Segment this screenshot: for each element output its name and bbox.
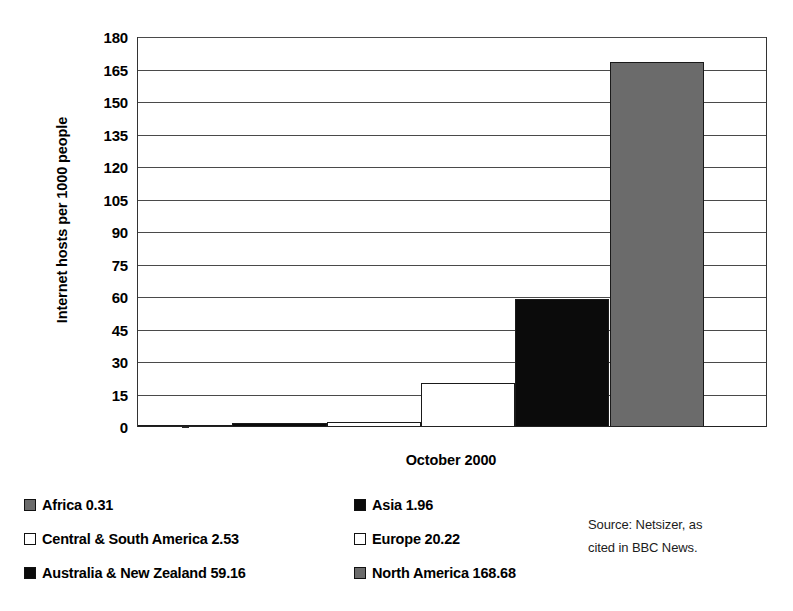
legend-label: Australia & New Zealand 59.16: [42, 565, 246, 581]
source-line-2: cited in BBC News.: [588, 537, 778, 560]
y-tick-label: 135: [52, 127, 128, 142]
y-tick-mark: [182, 427, 189, 428]
y-tick-label: 90: [52, 225, 128, 240]
legend-swatch-icon: [24, 567, 36, 579]
legend-swatch-icon: [354, 533, 366, 545]
y-tick-label: 30: [52, 355, 128, 370]
bar: [515, 299, 609, 427]
legend-row: Africa 0.31Asia 1.96: [24, 497, 554, 531]
legend-entry[interactable]: Australia & New Zealand 59.16: [24, 565, 246, 581]
y-tick-label: 15: [52, 387, 128, 402]
legend-swatch-icon: [354, 499, 366, 511]
y-tick-label: 165: [52, 62, 128, 77]
legend-label: Asia 1.96: [372, 497, 433, 513]
bar: [421, 383, 515, 427]
y-tick-label: 120: [52, 160, 128, 175]
legend-entry[interactable]: Europe 20.22: [354, 531, 460, 547]
y-tick-label: 60: [52, 290, 128, 305]
bar-chart-figure: Internet hosts per 1000 people 180165150…: [0, 0, 793, 611]
legend-entry[interactable]: Asia 1.96: [354, 497, 433, 513]
legend-label: Central & South America 2.53: [42, 531, 239, 547]
y-tick-label: 105: [52, 192, 128, 207]
legend-swatch-icon: [24, 499, 36, 511]
y-axis-tick-labels: 1801651501351201059075604530150: [52, 37, 128, 427]
plot-area: [137, 37, 767, 427]
y-tick-label: 0: [52, 420, 128, 435]
source-note: Source: Netsizer, as cited in BBC News.: [588, 514, 778, 560]
y-tick-label: 150: [52, 95, 128, 110]
legend-label: Africa 0.31: [42, 497, 113, 513]
y-tick-label: 45: [52, 322, 128, 337]
legend-entry[interactable]: North America 168.68: [354, 565, 516, 581]
legend-label: Europe 20.22: [372, 531, 460, 547]
source-line-1: Source: Netsizer, as: [588, 514, 778, 537]
legend-swatch-icon: [24, 533, 36, 545]
y-tick-label: 75: [52, 257, 128, 272]
legend-label: North America 168.68: [372, 565, 516, 581]
legend-swatch-icon: [354, 567, 366, 579]
y-tick-label: 180: [52, 30, 128, 45]
legend-row: Central & South America 2.53Europe 20.22: [24, 531, 554, 565]
chart-legend: Africa 0.31Asia 1.96Central & South Amer…: [24, 497, 554, 599]
legend-entry[interactable]: Central & South America 2.53: [24, 531, 239, 547]
bar-series: [138, 37, 766, 427]
x-axis-baseline: [138, 426, 766, 427]
legend-entry[interactable]: Africa 0.31: [24, 497, 113, 513]
bar: [610, 62, 704, 427]
x-axis-title: October 2000: [137, 452, 765, 468]
legend-row: Australia & New Zealand 59.16North Ameri…: [24, 565, 554, 599]
